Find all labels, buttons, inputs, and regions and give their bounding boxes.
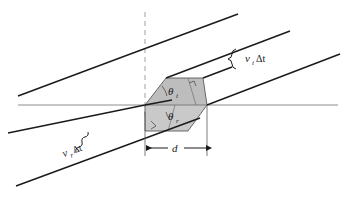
theta-refracted-subscript: r xyxy=(176,117,179,125)
refracted-beam-top-stub xyxy=(203,67,232,78)
diagram-canvas: θ i θ r v i Δt v r Δt xyxy=(0,0,347,207)
incident-ray-secondary xyxy=(18,56,125,96)
v-incident-delta-t: Δt xyxy=(256,53,265,64)
theta-refracted-symbol: θ xyxy=(168,110,174,122)
refraction-diagram: θ i θ r v i Δt v r Δt xyxy=(0,0,347,207)
dimension-label-d: d xyxy=(172,142,178,154)
refracted-beam-upper-edge xyxy=(125,14,238,56)
refracted-beam-middle-edge xyxy=(166,31,290,78)
v-refracted-symbol: v xyxy=(60,146,69,159)
refracted-beam-lower-edge xyxy=(207,54,340,105)
label-distance-incident: v i Δt xyxy=(245,52,265,67)
theta-incident-subscript: i xyxy=(176,92,178,100)
v-refracted-delta-t: Δt xyxy=(71,142,84,156)
incident-beam-upper-edge xyxy=(8,105,145,133)
label-distance-refracted: v r Δt xyxy=(60,141,84,162)
v-incident-subscript: i xyxy=(252,59,254,67)
v-incident-symbol: v xyxy=(245,52,250,64)
theta-incident-symbol: θ xyxy=(168,85,174,97)
